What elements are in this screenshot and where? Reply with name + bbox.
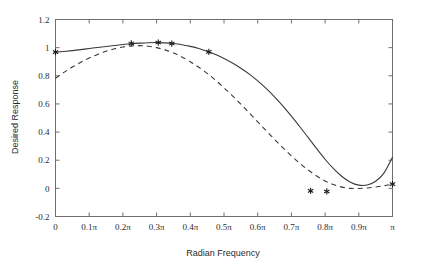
y-tick-label: 0.8 (38, 71, 50, 81)
y-tick-label: 0 (45, 184, 50, 194)
chart-figure: 00.1π0.2π0.3π0.4π0.5π0.6π0.7π0.8π0.9ππ -… (0, 0, 422, 264)
x-tick-label: 0.5π (216, 222, 232, 232)
x-tick-label: 0.1π (81, 222, 97, 232)
x-tick-label: 0.7π (284, 222, 300, 232)
y-axis-title: Desired Response (10, 80, 20, 154)
x-tick-label: 0 (53, 222, 58, 232)
x-tick-label: 0.6π (250, 222, 266, 232)
y-tick-label: 0.6 (38, 99, 50, 109)
x-tick-label: π (390, 222, 395, 232)
y-tick-label: -0.2 (35, 212, 49, 222)
y-tick-label: 0.4 (38, 127, 50, 137)
x-tick-label: 0.9π (351, 222, 367, 232)
desired-response-plot: 00.1π0.2π0.3π0.4π0.5π0.6π0.7π0.8π0.9ππ -… (0, 0, 422, 264)
x-tick-label: 0.8π (317, 222, 333, 232)
x-tick-label: 0.4π (182, 222, 198, 232)
x-tick-label: 0.2π (115, 222, 131, 232)
y-tick-label: 1 (45, 43, 50, 53)
y-tick-label: 1.2 (38, 15, 49, 25)
y-tick-label: 0.2 (38, 155, 49, 165)
x-axis-title: Radian Frequency (186, 248, 260, 258)
x-tick-label: 0.3π (149, 222, 165, 232)
